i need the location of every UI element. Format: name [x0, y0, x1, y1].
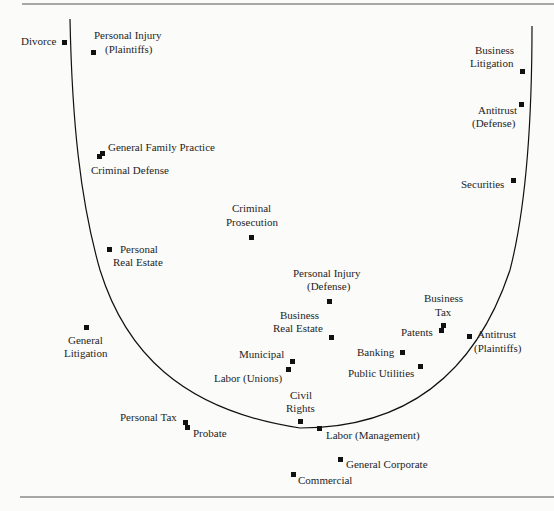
- marker-securities: [511, 178, 516, 183]
- label-general-lit-1: General: [68, 334, 103, 347]
- marker-personal-re: [107, 247, 112, 252]
- label-business-lit-1: Business: [475, 44, 514, 57]
- label-civil-rights-1: Civil: [290, 389, 312, 402]
- marker-business-re: [329, 335, 334, 340]
- label-personal-re-1: Personal: [120, 243, 158, 256]
- label-labor-mgmt: Labor (Management): [326, 429, 420, 442]
- diagram-lines: [0, 0, 554, 511]
- label-business-lit-2: Litigation: [470, 57, 513, 70]
- marker-business-lit: [520, 69, 525, 74]
- label-pi-defense-1: Personal Injury: [293, 267, 361, 280]
- marker-probate: [185, 425, 190, 430]
- label-general-lit-2: Litigation: [64, 347, 107, 360]
- marker-criminal-prosecution: [249, 235, 254, 240]
- label-public-utilities: Public Utilities: [348, 367, 414, 380]
- marker-pi-defense: [327, 299, 332, 304]
- practice-area-diagram: Divorce Personal Injury (Plaintiffs) Gen…: [0, 0, 554, 511]
- label-civil-rights-2: Rights: [286, 402, 315, 415]
- marker-labor-unions: [286, 367, 291, 372]
- label-antitrust-pl-1: Antitrust: [477, 328, 516, 341]
- marker-municipal: [290, 359, 295, 364]
- label-antitrust-def-2: (Defense): [472, 117, 515, 130]
- label-labor-unions: Labor (Unions): [214, 372, 282, 385]
- label-business-re-2: Real Estate: [273, 322, 323, 335]
- marker-patents: [439, 328, 444, 333]
- label-personal-tax: Personal Tax: [120, 411, 177, 424]
- label-municipal: Municipal: [239, 348, 284, 361]
- marker-labor-mgmt: [317, 426, 322, 431]
- label-criminal-prosecution-2: Prosecution: [226, 216, 278, 229]
- marker-pi-plaintiffs: [91, 50, 96, 55]
- label-general-corporate: General Corporate: [346, 458, 428, 471]
- label-patents: Patents: [401, 326, 433, 339]
- marker-general-lit: [84, 325, 89, 330]
- marker-banking: [400, 350, 405, 355]
- label-criminal-prosecution-1: Criminal: [232, 202, 271, 215]
- label-business-tax-1: Business: [424, 292, 463, 305]
- marker-commercial: [291, 472, 296, 477]
- label-divorce: Divorce: [21, 35, 56, 48]
- marker-divorce: [62, 40, 67, 45]
- label-business-re-1: Business: [280, 309, 319, 322]
- marker-public-utilities: [418, 364, 423, 369]
- label-personal-re-2: Real Estate: [113, 256, 163, 269]
- marker-criminal-defense: [97, 154, 102, 159]
- marker-antitrust-def: [519, 102, 524, 107]
- label-pi-defense-2: (Defense): [307, 280, 350, 293]
- label-antitrust-def-1: Antitrust: [478, 104, 517, 117]
- label-general-family: General Family Practice: [108, 141, 215, 154]
- label-banking: Banking: [357, 346, 394, 359]
- marker-general-corporate: [338, 457, 343, 462]
- label-business-tax-2: Tax: [435, 306, 451, 319]
- label-antitrust-pl-2: (Plaintiffs): [474, 342, 521, 355]
- marker-antitrust-pl: [467, 334, 472, 339]
- marker-civil-rights: [298, 419, 303, 424]
- label-securities: Securities: [461, 178, 504, 191]
- label-pi-plaintiffs-1: Personal Injury: [94, 29, 162, 42]
- u-curve: [70, 19, 532, 428]
- label-criminal-defense: Criminal Defense: [91, 164, 169, 177]
- label-commercial: Commercial: [298, 474, 352, 487]
- label-probate: Probate: [193, 427, 227, 440]
- label-pi-plaintiffs-2: (Plaintiffs): [105, 43, 152, 56]
